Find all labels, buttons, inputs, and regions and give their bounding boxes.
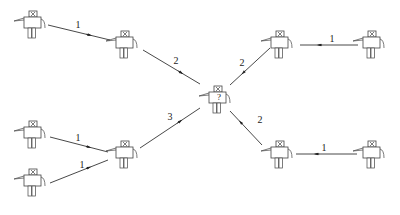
robot-antenna-icon: [106, 148, 116, 151]
robot-arm-icon: [288, 149, 292, 158]
robot-leg-icon: [120, 48, 124, 58]
robot-leg-icon: [32, 138, 36, 148]
robot-leg-icon: [32, 186, 36, 196]
robot-body-icon: [271, 147, 288, 158]
edge-c-b_e: 1: [50, 132, 108, 152]
robot-node-i: [261, 141, 292, 168]
arrow-head-icon: [177, 121, 181, 123]
robot-arm-icon: [133, 39, 137, 48]
edge-b-f: 2: [143, 50, 200, 84]
robot-antenna-icon: [353, 148, 363, 151]
robot-arm-icon: [380, 149, 384, 158]
robot-leg-icon: [124, 48, 128, 58]
robot-unknown-label: ?: [217, 92, 221, 102]
arrow-head-icon: [86, 146, 89, 147]
edge-j-i: 1: [296, 142, 357, 154]
edge-weight-label: 1: [76, 19, 81, 30]
robot-node-j: [353, 141, 384, 168]
robot-body-icon: [116, 147, 133, 158]
robot-node-g: [261, 31, 292, 58]
robot-antenna-icon: [14, 128, 24, 131]
edge-weight-label: 1: [76, 132, 81, 143]
robot-leg-icon: [213, 103, 217, 113]
edge-e-f: 3: [140, 108, 200, 148]
robot-leg-icon: [367, 158, 371, 168]
robot-arm-icon: [41, 129, 45, 138]
robot-body-icon: [271, 37, 288, 48]
robot-leg-icon: [275, 48, 279, 58]
robot-body-icon: [24, 127, 41, 138]
diagram-canvas: 121211312 ?: [0, 0, 400, 215]
edge-weight-label: 2: [258, 114, 263, 125]
robot-antenna-icon: [261, 148, 271, 151]
robot-leg-icon: [371, 158, 375, 168]
robot-leg-icon: [32, 28, 36, 38]
edge-weight-label: 1: [80, 159, 85, 170]
robot-leg-icon: [371, 48, 375, 58]
robot-antenna-icon: [353, 38, 363, 41]
robot-arm-icon: [380, 39, 384, 48]
robot-arm-icon: [288, 39, 292, 48]
robot-arm-icon: [41, 177, 45, 186]
robot-node-e: [106, 141, 137, 168]
edge-weight-label: 2: [240, 57, 245, 68]
robot-leg-icon: [217, 103, 221, 113]
arrow-head-icon: [243, 71, 245, 73]
edge-i-f: 2: [230, 111, 263, 145]
robot-antenna-icon: [14, 18, 24, 21]
robot-node-c: [14, 121, 45, 148]
nodes-layer: ?: [14, 11, 384, 196]
arrow-head-icon: [86, 167, 89, 168]
robot-leg-icon: [275, 158, 279, 168]
robot-leg-icon: [279, 158, 283, 168]
robot-arm-icon: [226, 94, 230, 103]
edge-g-f: 2: [230, 48, 270, 85]
robot-leg-icon: [28, 186, 32, 196]
edges-layer: 121211312: [48, 19, 358, 183]
robot-antenna-icon: [199, 93, 209, 96]
robot-leg-icon: [279, 48, 283, 58]
robot-node-b: [106, 31, 137, 58]
robot-leg-icon: [367, 48, 371, 58]
robot-node-h: [353, 31, 384, 58]
robot-leg-icon: [124, 158, 128, 168]
edge-weight-label: 2: [174, 55, 179, 66]
edge-d-e: 1: [50, 159, 108, 183]
arrow-head-icon: [86, 34, 90, 35]
robot-node-f: ?: [199, 86, 230, 113]
robot-leg-icon: [28, 138, 32, 148]
robot-leg-icon: [120, 158, 124, 168]
edge-weight-label: 1: [322, 142, 327, 153]
robot-body-icon: [363, 37, 380, 48]
robot-body-icon: [116, 37, 133, 48]
robot-body-icon: [363, 147, 380, 158]
robot-node-a: [14, 11, 45, 38]
robot-arm-icon: [133, 149, 137, 158]
robot-antenna-icon: [261, 38, 271, 41]
edge-weight-label: 1: [330, 33, 335, 44]
robot-leg-icon: [28, 28, 32, 38]
robot-node-d: [14, 169, 45, 196]
edge-h-g: 1: [300, 33, 358, 45]
robot-antenna-icon: [14, 176, 24, 179]
edge-weight-label: 3: [168, 111, 173, 122]
arrow-head-icon: [178, 71, 181, 73]
arrow-head-icon: [240, 122, 242, 124]
robot-body-icon: [24, 175, 41, 186]
robot-arm-icon: [41, 19, 45, 28]
robot-body-icon: [24, 17, 41, 28]
edge-a-b: 1: [48, 19, 110, 40]
